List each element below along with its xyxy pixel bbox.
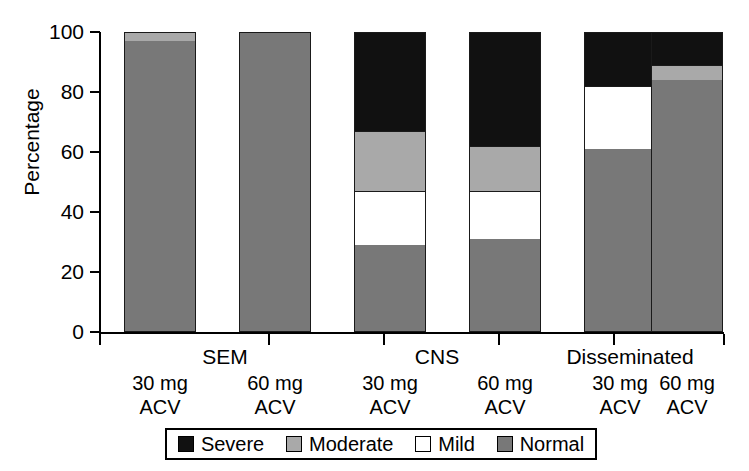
bar-segment-severe[interactable] — [584, 32, 656, 86]
y-tick-label-text: 40 — [38, 201, 84, 222]
y-tick-60 — [90, 151, 100, 153]
plot-area — [101, 32, 724, 332]
x-tick-label-dose: 30 mg — [132, 372, 188, 394]
bar-4[interactable] — [584, 32, 656, 332]
legend-item-moderate[interactable]: Moderate — [286, 434, 394, 454]
x-tick-label-3: 60 mgACV — [450, 371, 560, 419]
legend-label: Moderate — [309, 434, 394, 454]
x-tick-1 — [268, 334, 270, 345]
x-tick-label-2: 30 mgACV — [335, 371, 445, 419]
x-tick-label-1: 60 mgACV — [220, 371, 330, 419]
bar-5[interactable] — [651, 32, 723, 332]
y-tick-80 — [90, 91, 100, 93]
x-tick-label-drug: ACV — [105, 395, 215, 419]
y-tick-label-100: 100 — [32, 21, 84, 42]
y-tick-0 — [90, 331, 100, 333]
bar-1[interactable] — [239, 32, 311, 332]
x-tick-label-dose: 60 mg — [477, 372, 533, 394]
y-tick-label-text: 20 — [38, 261, 84, 282]
legend-label: Mild — [438, 434, 475, 454]
bar-segment-severe[interactable] — [651, 32, 723, 65]
legend-swatch-normal-icon — [497, 436, 513, 452]
legend-swatch-mild-icon — [415, 436, 431, 452]
x-tick-label-drug: ACV — [335, 395, 445, 419]
x-tick-label-drug: ACV — [220, 395, 330, 419]
y-tick-label-text: 60 — [38, 141, 84, 162]
bar-segment-mild[interactable] — [469, 191, 541, 239]
x-group-label-disseminated: Disseminated — [520, 345, 740, 369]
legend-swatch-moderate-icon — [286, 436, 302, 452]
x-tick-label-dose: 60 mg — [659, 372, 715, 394]
x-tick-2 — [383, 334, 385, 345]
x-group-label-cns: CNS — [327, 345, 547, 369]
bar-segment-mild[interactable] — [354, 191, 426, 245]
legend-item-severe[interactable]: Severe — [178, 434, 264, 454]
y-tick-40 — [90, 211, 100, 213]
x-tick-3 — [498, 334, 500, 345]
bar-segment-moderate[interactable] — [354, 131, 426, 191]
legend-label: Normal — [520, 434, 584, 454]
x-axis-line — [99, 332, 724, 334]
y-tick-label-text: 100 — [38, 21, 84, 42]
legend-item-mild[interactable]: Mild — [415, 434, 475, 454]
y-tick-label-text: 0 — [38, 321, 84, 342]
legend-item-normal[interactable]: Normal — [497, 434, 584, 454]
bar-segment-severe[interactable] — [354, 32, 426, 131]
bar-segment-normal[interactable] — [651, 80, 723, 332]
bar-segment-normal[interactable] — [124, 41, 196, 332]
bar-segment-normal[interactable] — [239, 32, 311, 332]
x-tick-4 — [613, 334, 615, 345]
y-tick-20 — [90, 271, 100, 273]
x-tick-label-dose: 60 mg — [247, 372, 303, 394]
legend-swatch-severe-icon — [178, 436, 194, 452]
bar-segment-moderate[interactable] — [124, 32, 196, 41]
y-tick-label-20: 20 — [32, 261, 84, 282]
x-tick-0 — [99, 334, 101, 345]
x-tick-label-drug: ACV — [632, 395, 742, 419]
legend-label: Severe — [201, 434, 264, 454]
x-tick-label-drug: ACV — [450, 395, 560, 419]
stacked-bar-chart: Percentage 020406080100 SEMCNSDisseminat… — [0, 0, 749, 471]
y-tick-label-80: 80 — [32, 81, 84, 102]
bar-segment-severe[interactable] — [469, 32, 541, 146]
bar-0[interactable] — [124, 32, 196, 332]
x-tick-label-dose: 30 mg — [362, 372, 418, 394]
x-group-label-sem: SEM — [115, 345, 335, 369]
bar-segment-normal[interactable] — [354, 245, 426, 332]
x-tick-label-5: 60 mgACV — [632, 371, 742, 419]
bar-segment-moderate[interactable] — [651, 65, 723, 80]
x-tick-5 — [723, 334, 725, 345]
bar-segment-normal[interactable] — [469, 239, 541, 332]
bar-segment-mild[interactable] — [584, 86, 656, 149]
bar-2[interactable] — [354, 32, 426, 332]
x-tick-label-0: 30 mgACV — [105, 371, 215, 419]
y-tick-label-60: 60 — [32, 141, 84, 162]
y-tick-label-text: 80 — [38, 81, 84, 102]
chart-legend: SevereModerateMildNormal — [165, 428, 597, 460]
bar-segment-normal[interactable] — [584, 149, 656, 332]
bar-segment-moderate[interactable] — [469, 146, 541, 191]
y-tick-label-40: 40 — [32, 201, 84, 222]
y-tick-100 — [90, 31, 100, 33]
bar-3[interactable] — [469, 32, 541, 332]
y-tick-label-0: 0 — [32, 321, 84, 342]
